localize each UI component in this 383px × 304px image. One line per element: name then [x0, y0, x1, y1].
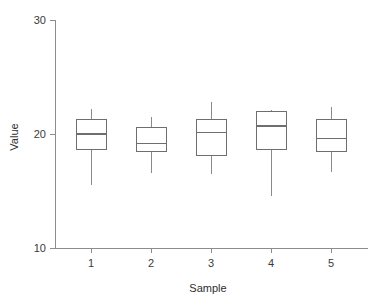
x-tick-label: 2: [148, 257, 154, 269]
y-tick-label: 10: [34, 242, 46, 254]
x-tick-label: 4: [268, 257, 274, 269]
x-tick-group: 12345: [88, 248, 334, 269]
x-axis: 12345: [55, 248, 368, 269]
box-series: [76, 102, 346, 195]
box-body: [196, 119, 226, 155]
x-tick-label: 5: [328, 257, 334, 269]
box-body: [76, 119, 106, 150]
y-axis: 102030: [34, 14, 55, 254]
boxplot-chart: 102030 12345 Sample Value: [0, 0, 383, 304]
box-plot-item: [316, 107, 346, 172]
box-plot-item: [196, 102, 226, 174]
x-tick-label: 3: [208, 257, 214, 269]
box-plot-item: [136, 117, 166, 173]
y-axis-title: Value: [8, 123, 20, 150]
box-plot-item: [76, 109, 106, 185]
chart-canvas: 102030 12345 Sample Value: [0, 0, 383, 304]
box-plot-item: [256, 110, 286, 196]
x-tick-label: 1: [88, 257, 94, 269]
x-axis-title: Sample: [189, 282, 226, 294]
y-tick-label: 20: [34, 128, 46, 140]
box-body: [136, 127, 166, 151]
box-body: [256, 111, 286, 150]
box-body: [316, 119, 346, 151]
y-tick-group: 102030: [34, 14, 55, 254]
y-tick-label: 30: [34, 14, 46, 26]
